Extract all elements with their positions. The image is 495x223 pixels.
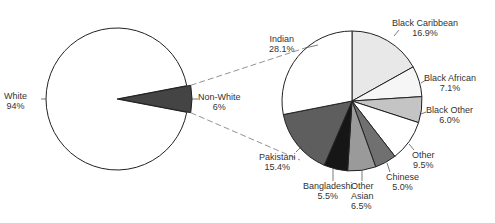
label-other-asian: Other Asian 6.5% [351, 181, 374, 211]
label-black-other-name: Black Other [426, 105, 473, 115]
label-indian-pct: 28.1% [269, 44, 295, 54]
label-bangladeshi: Bangladeshi 5.5% [303, 181, 353, 201]
label-nonwhite-pct: 6% [198, 102, 241, 112]
label-indian: Indian 28.1% [269, 34, 295, 54]
main-pie [46, 28, 192, 170]
label-white: White 94% [4, 91, 27, 111]
label-chinese-pct: 5.0% [386, 182, 419, 192]
breakdown-pie [282, 31, 422, 171]
label-pakistani: Pakistani 15.4% [259, 152, 296, 172]
label-bangladeshi-pct: 5.5% [303, 191, 353, 201]
label-black-caribbean-pct: 16.9% [392, 28, 458, 38]
label-other-asian-name1: Other [351, 181, 374, 191]
label-black-other: Black Other 6.0% [426, 105, 473, 125]
label-nonwhite-name: Non-White [198, 92, 241, 102]
label-pakistani-pct: 15.4% [259, 162, 296, 172]
label-black-african: Black African 7.1% [424, 73, 476, 93]
label-nonwhite: Non-White 6% [198, 92, 241, 112]
label-chinese-name: Chinese [386, 172, 419, 182]
label-white-name: White [4, 91, 27, 101]
label-pakistani-name: Pakistani [259, 152, 296, 162]
label-chinese: Chinese 5.0% [386, 172, 419, 192]
label-other-pct: 9.5% [412, 160, 435, 170]
label-black-african-name: Black African [424, 73, 476, 83]
label-indian-name: Indian [269, 34, 295, 44]
label-other-asian-name2: Asian [351, 191, 374, 201]
leader-line [387, 163, 390, 172]
label-black-african-pct: 7.1% [424, 83, 476, 93]
label-other: Other 9.5% [412, 150, 435, 170]
label-bangladeshi-name: Bangladeshi [303, 181, 353, 191]
label-other-name: Other [412, 150, 435, 160]
label-black-caribbean-name: Black Caribbean [392, 18, 458, 28]
label-black-caribbean: Black Caribbean 16.9% [392, 18, 458, 38]
label-white-pct: 94% [4, 101, 27, 111]
label-black-other-pct: 6.0% [426, 115, 473, 125]
label-other-asian-pct: 6.5% [351, 201, 374, 211]
